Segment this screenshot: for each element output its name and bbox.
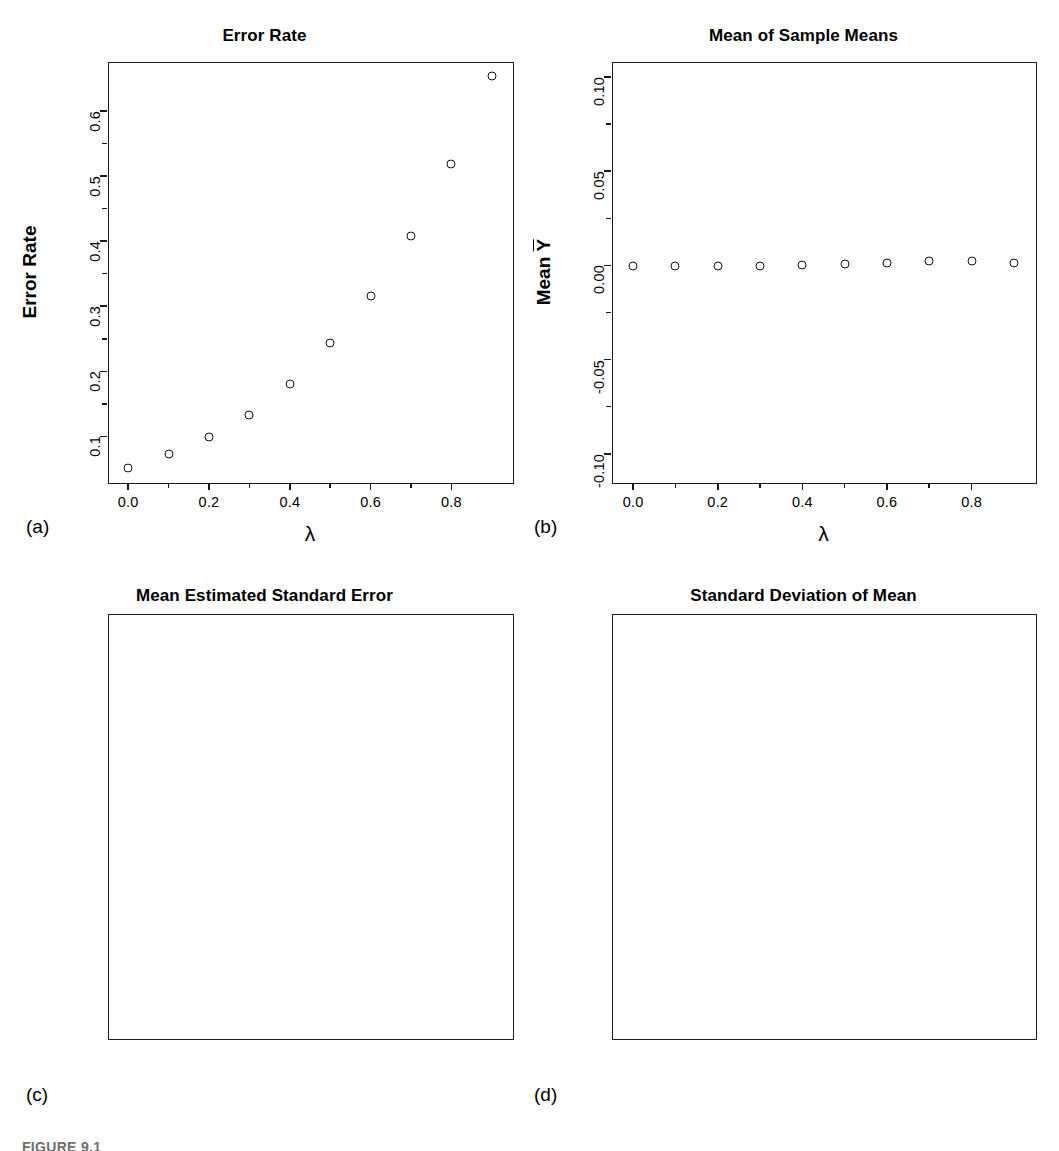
data-point bbox=[713, 261, 722, 270]
data-point bbox=[366, 292, 375, 301]
x-axis-minor-tick bbox=[675, 483, 677, 488]
x-axis-minor-tick bbox=[168, 483, 170, 488]
y-axis-tick-label: 0.05 bbox=[591, 171, 607, 200]
figure-panel-grid: Error Rate 0.10.20.30.40.50.60.00.20.40.… bbox=[0, 0, 1059, 1151]
data-point bbox=[798, 260, 807, 269]
data-point bbox=[326, 339, 335, 348]
panel-c-plot-area bbox=[108, 614, 514, 1040]
panel-b-x-axis-label: λ bbox=[818, 522, 829, 546]
x-axis-tick-label: 0.4 bbox=[279, 494, 300, 510]
data-point bbox=[756, 261, 765, 270]
y-axis-tick-label: 0.1 bbox=[87, 436, 103, 457]
panel-d-standard-deviation-of-mean: Standard Deviation of Mean 0.00.51.01.52… bbox=[530, 560, 1059, 1120]
panel-a-x-axis-label: λ bbox=[305, 522, 316, 546]
data-point bbox=[629, 261, 638, 270]
y-axis-minor-tick bbox=[102, 403, 107, 405]
x-axis-minor-tick bbox=[249, 483, 251, 488]
panel-b-plot-area bbox=[612, 62, 1037, 484]
x-axis-tick bbox=[370, 483, 372, 490]
panel-d-title: Standard Deviation of Mean bbox=[548, 586, 1059, 606]
x-axis-tick-label: 0.4 bbox=[792, 494, 813, 510]
y-axis-tick-label: 0.3 bbox=[87, 306, 103, 327]
panel-b-y-axis-label: Mean Y bbox=[533, 239, 555, 306]
y-axis-tick-label: 0.00 bbox=[591, 265, 607, 294]
data-point bbox=[285, 379, 294, 388]
panel-a-letter: (a) bbox=[26, 516, 49, 538]
figure-caption: FIGURE 9.1 bbox=[22, 1139, 101, 1151]
y-axis-tick-label: 0.2 bbox=[87, 371, 103, 392]
x-axis-minor-tick bbox=[759, 483, 761, 488]
panel-b-title: Mean of Sample Means bbox=[548, 26, 1059, 46]
data-point bbox=[840, 259, 849, 268]
panel-d-letter: (d) bbox=[534, 1084, 557, 1106]
data-point bbox=[124, 464, 133, 473]
y-axis-minor-tick bbox=[606, 123, 611, 125]
x-axis-tick bbox=[971, 483, 973, 490]
x-axis-tick bbox=[208, 483, 210, 490]
panel-b-letter: (b) bbox=[534, 516, 557, 538]
x-axis-minor-tick bbox=[329, 483, 331, 488]
data-point bbox=[245, 410, 254, 419]
data-point bbox=[407, 231, 416, 240]
y-axis-minor-tick bbox=[606, 406, 611, 408]
x-axis-tick bbox=[632, 483, 634, 490]
panel-c-letter: (c) bbox=[26, 1084, 48, 1106]
x-axis-tick-label: 0.0 bbox=[623, 494, 644, 510]
data-point bbox=[925, 257, 934, 266]
data-point bbox=[447, 159, 456, 168]
panel-c-title: Mean Estimated Standard Error bbox=[0, 586, 529, 606]
data-point bbox=[205, 433, 214, 442]
x-axis-tick-label: 0.0 bbox=[118, 494, 139, 510]
y-axis-minor-tick bbox=[102, 338, 107, 340]
y-axis-tick-label: 0.6 bbox=[87, 111, 103, 132]
x-axis-tick-label: 0.6 bbox=[877, 494, 898, 510]
data-point bbox=[967, 256, 976, 265]
x-axis-tick bbox=[289, 483, 291, 490]
y-axis-tick-label: 0.10 bbox=[591, 77, 607, 106]
x-axis-tick bbox=[802, 483, 804, 490]
y-axis-minor-tick bbox=[102, 208, 107, 210]
data-point bbox=[882, 258, 891, 267]
y-axis-minor-tick bbox=[606, 312, 611, 314]
panel-a-error-rate: Error Rate 0.10.20.30.40.50.60.00.20.40.… bbox=[0, 0, 529, 560]
y-axis-minor-tick bbox=[102, 273, 107, 275]
x-axis-tick bbox=[127, 483, 129, 490]
y-axis-minor-tick bbox=[102, 143, 107, 145]
y-axis-minor-tick bbox=[606, 218, 611, 220]
y-axis-tick-label: 0.5 bbox=[87, 176, 103, 197]
x-axis-minor-tick bbox=[410, 483, 412, 488]
panel-c-mean-estimated-standard-error: Mean Estimated Standard Error 0.00.10.20… bbox=[0, 560, 529, 1120]
y-axis-tick-label: 0.4 bbox=[87, 241, 103, 262]
y-axis-tick-label: -0.05 bbox=[591, 360, 607, 394]
panel-a-y-axis-label: Error Rate bbox=[19, 226, 41, 319]
x-axis-tick-label: 0.8 bbox=[961, 494, 982, 510]
x-axis-tick bbox=[451, 483, 453, 490]
data-point bbox=[487, 72, 496, 81]
x-axis-tick-label: 0.6 bbox=[360, 494, 381, 510]
panel-a-plot-area bbox=[108, 62, 514, 484]
x-axis-minor-tick bbox=[844, 483, 846, 488]
x-axis-tick bbox=[886, 483, 888, 490]
x-axis-minor-tick bbox=[928, 483, 930, 488]
data-point bbox=[1009, 258, 1018, 267]
panel-d-plot-area bbox=[612, 614, 1037, 1040]
y-axis-tick-label: -0.10 bbox=[591, 454, 607, 488]
x-axis-tick-label: 0.2 bbox=[199, 494, 220, 510]
x-axis-tick bbox=[717, 483, 719, 490]
panel-b-mean-of-sample-means: Mean of Sample Means -0.10-0.050.000.050… bbox=[530, 0, 1059, 560]
x-axis-tick-label: 0.8 bbox=[441, 494, 462, 510]
x-axis-tick-label: 0.2 bbox=[707, 494, 728, 510]
panel-a-title: Error Rate bbox=[0, 26, 529, 46]
data-point bbox=[164, 450, 173, 459]
data-point bbox=[671, 261, 680, 270]
